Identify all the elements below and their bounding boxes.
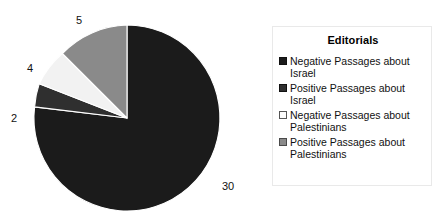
legend-swatch-negative-palestinians <box>279 111 287 119</box>
legend-title: Editorials <box>277 34 429 46</box>
legend-label-positive-israel: Positive Passages about Israel <box>290 82 429 106</box>
legend-item-negative-israel[interactable]: Negative Passages about Israel <box>279 55 429 79</box>
legend-swatch-negative-israel <box>279 57 287 65</box>
legend-item-positive-israel[interactable]: Positive Passages about Israel <box>279 82 429 106</box>
legend-label-positive-palestinians: Positive Passages about Palestinians <box>290 136 429 160</box>
data-label-four: 4 <box>27 62 33 74</box>
legend-swatch-positive-israel <box>279 84 287 92</box>
legend-item-positive-palestinians[interactable]: Positive Passages about Palestinians <box>279 136 429 160</box>
data-label-two: 2 <box>11 112 17 124</box>
legend-item-negative-palestinians[interactable]: Negative Passages about Palestinians <box>279 109 429 133</box>
pie-plot-area: 5 4 2 30 <box>0 0 268 218</box>
chart-legend: Editorials Negative Passages about Israe… <box>272 26 432 186</box>
pie-chart-figure: 5 4 2 30 Editorials Negative Passages ab… <box>0 0 436 218</box>
legend-label-negative-israel: Negative Passages about Israel <box>290 55 429 79</box>
legend-label-negative-palestinians: Negative Passages about Palestinians <box>290 109 429 133</box>
data-label-five: 5 <box>76 14 82 26</box>
data-label-thirty: 30 <box>222 180 234 192</box>
legend-swatch-positive-palestinians <box>279 138 287 146</box>
